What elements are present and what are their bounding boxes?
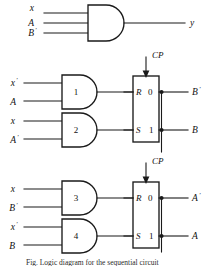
and-gate-1-input-label-x: x xyxy=(10,78,16,88)
output-gate-body xyxy=(88,5,124,41)
flipflop-A-output-0-label: A xyxy=(191,193,198,203)
and-gate-1-input-label-a: A xyxy=(9,97,16,107)
flipflop-A-output-1-label: A xyxy=(191,231,198,241)
and-gate-2-input-label-a: A xyxy=(9,135,16,145)
and-gate-4-number: 4 xyxy=(74,231,79,241)
flipflop-A-state-0-label: 0 xyxy=(148,193,153,203)
and-gate-1-body xyxy=(62,75,97,109)
and-gate-3-number: 3 xyxy=(74,193,79,203)
and-gate-3-input-label-b: B xyxy=(9,203,15,213)
flipflop-A-output-1-junction-dot xyxy=(159,234,163,238)
flipflop-B-state-0-label: 0 xyxy=(148,87,153,97)
and-gate-4-input-prime-x: ' xyxy=(16,220,18,228)
and-gate-1 xyxy=(24,75,133,109)
flipflop-B xyxy=(124,57,188,152)
flipflop-B-state-1-label: 1 xyxy=(149,125,154,135)
figure-caption: Fig. Logic diagram for the sequential ci… xyxy=(26,258,206,266)
and-gate-3-input-prime-b: ' xyxy=(16,201,18,209)
flipflop-B-terminal-r-label: R xyxy=(135,87,142,97)
flipflop-B-output-0-label: B xyxy=(192,87,198,97)
and-gate-2-input-label-x: x xyxy=(10,116,16,126)
and-gate-2-input-prime-a: ' xyxy=(17,133,19,141)
and-gate-3-body xyxy=(62,181,97,215)
flipflop-B-terminal-s-label: S xyxy=(136,125,141,135)
output-gate-input-label-x: x xyxy=(29,3,35,13)
flipflop-B-output-1-label: B xyxy=(192,125,198,135)
flipflop-A-clock-label: CP xyxy=(152,156,164,166)
and-gate-4-input-label-b: B xyxy=(9,241,15,251)
and-gate-2-body xyxy=(62,113,97,147)
flipflop-A-terminal-r-label: R xyxy=(135,193,142,203)
and-gate-4-body xyxy=(62,219,97,253)
flipflop-B-clock-label: CP xyxy=(152,50,164,60)
flipflop-A-state-1-label: 1 xyxy=(149,231,154,241)
figure-caption-clip: Fig. Logic diagram for the sequential ci… xyxy=(0,258,219,266)
flipflop-A-terminal-s-label: S xyxy=(136,231,141,241)
output-gate-input-prime-b: ' xyxy=(35,26,37,34)
output-gate-output-label-y: y xyxy=(189,18,195,28)
and-gate-4 xyxy=(24,219,133,253)
flipflop-A xyxy=(124,163,188,252)
and-gate-1-input-prime-x: ' xyxy=(16,76,18,84)
flipflop-B-output-1-junction-dot xyxy=(159,128,163,132)
and-gate-3-input-label-x: x xyxy=(10,184,16,194)
output-gate-input-label-a: A xyxy=(27,18,34,28)
flipflop-B-output-0-prime: ' xyxy=(199,85,201,93)
and-gate-2-number: 2 xyxy=(74,125,79,135)
and-gate-2 xyxy=(24,113,133,147)
output-gate-input-label-b: B xyxy=(28,28,34,38)
and-gate-3 xyxy=(24,181,133,215)
output-and-gate xyxy=(44,5,185,41)
flipflop-A-output-0-prime: ' xyxy=(199,191,201,199)
circuit-diagram-figure: x A B ' y x ' A x A ' x B ' x ' B 1 2 3 … xyxy=(0,0,219,266)
and-gate-1-number: 1 xyxy=(74,87,79,97)
and-gate-4-input-label-x: x xyxy=(10,222,16,232)
circuit-schematic: x A B ' y x ' A x A ' x B ' x ' B 1 2 3 … xyxy=(0,0,219,266)
